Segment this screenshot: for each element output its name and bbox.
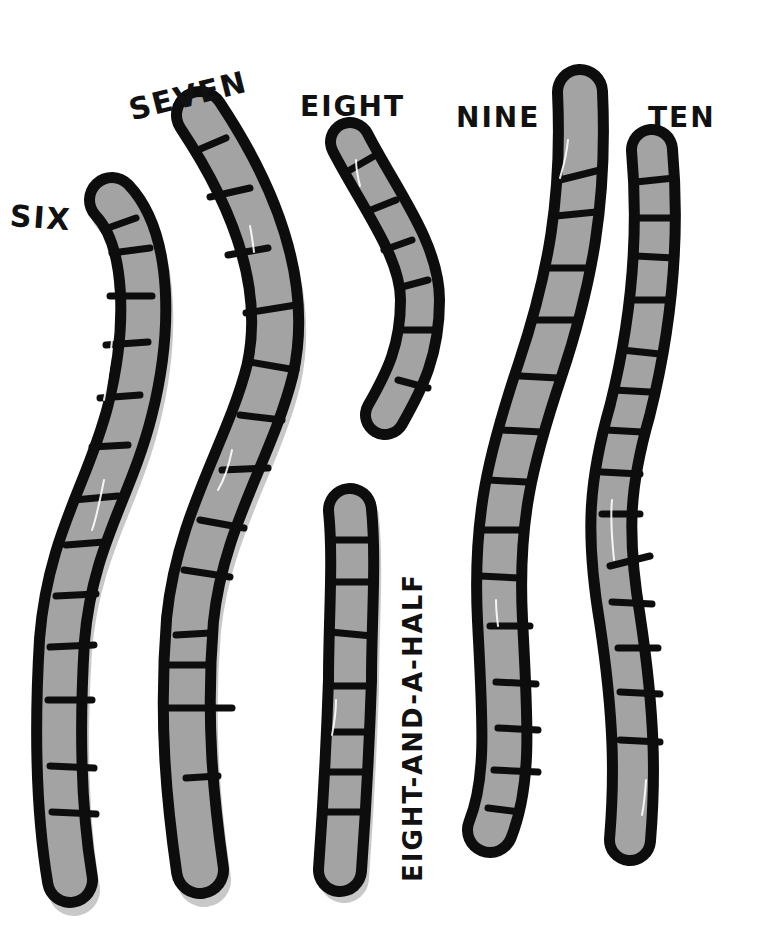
- worm-seven: [166, 115, 296, 870]
- worm-ten: [602, 150, 676, 840]
- worm-eight: [350, 142, 436, 415]
- label-eight-and-a-half: EIGHT-AND-A-HALF: [398, 573, 428, 882]
- label-ten: TEN: [648, 101, 716, 134]
- worm-six: [48, 200, 152, 880]
- worm-nine: [480, 92, 600, 830]
- label-nine: NINE: [456, 101, 540, 134]
- worm-eight-and-a-half: [322, 510, 372, 870]
- worm-illustration: SIX SEVEN EIGHT EIGHT-AND-A-HALF NINE TE…: [0, 0, 768, 941]
- label-eight: EIGHT: [300, 90, 405, 123]
- label-six: SIX: [9, 198, 73, 237]
